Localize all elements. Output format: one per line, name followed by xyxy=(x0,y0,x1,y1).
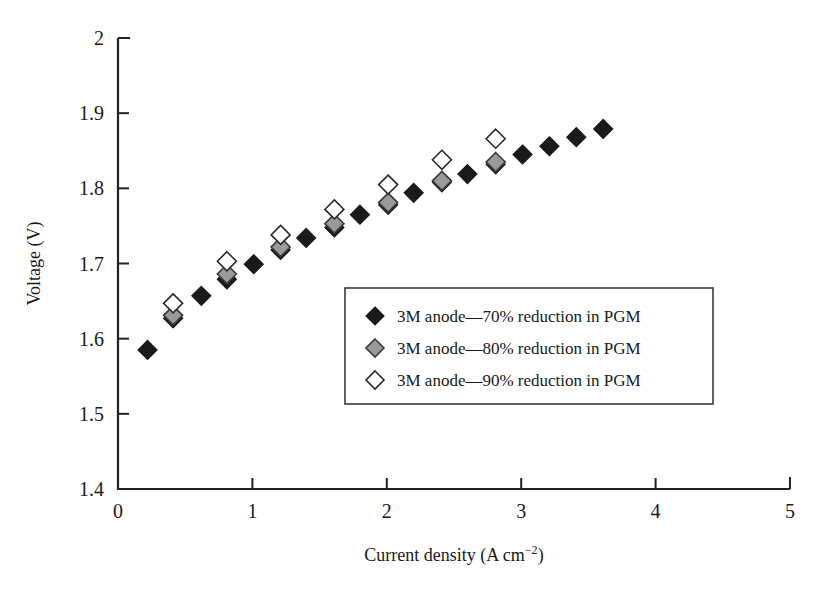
y-tick-label: 1.5 xyxy=(79,403,104,425)
data-point xyxy=(192,286,211,305)
data-point xyxy=(164,294,183,313)
y-tick-label: 1.9 xyxy=(79,102,104,124)
legend-item-2[interactable]: 3M anode—80% reduction in PGM xyxy=(366,339,641,358)
data-point xyxy=(217,252,236,271)
legend-item-1[interactable]: 3M anode—70% reduction in PGM xyxy=(366,307,641,326)
data-point xyxy=(486,129,505,148)
x-axis-title: Current density (A cm−2) xyxy=(364,543,543,566)
x-axis-title-superscript: −2 xyxy=(525,543,538,557)
x-tick-label: 5 xyxy=(785,500,795,522)
y-tick-label: 1.7 xyxy=(79,253,104,275)
data-point xyxy=(244,255,263,274)
chart-legend: 3M anode—70% reduction in PGM3M anode—80… xyxy=(345,288,713,404)
data-point xyxy=(271,225,290,244)
x-axis-title-tail: ) xyxy=(538,545,544,566)
y-axis-tick-labels: 1.41.51.61.71.81.92 xyxy=(79,27,104,500)
data-point xyxy=(594,119,613,138)
legend-label: 3M anode—90% reduction in PGM xyxy=(397,371,641,390)
x-axis-title-base: Current density (A cm xyxy=(364,545,524,566)
data-point xyxy=(432,171,451,190)
data-point xyxy=(138,340,157,359)
x-axis-tick-labels: 012345 xyxy=(113,500,795,522)
data-point xyxy=(379,193,398,212)
legend-item-3[interactable]: 3M anode—90% reduction in PGM xyxy=(366,371,641,390)
y-tick-label: 1.4 xyxy=(79,478,104,500)
data-point xyxy=(567,128,586,147)
legend-label: 3M anode—80% reduction in PGM xyxy=(397,339,641,358)
y-tick-label: 1.6 xyxy=(79,328,104,350)
chart-figure: 1.41.51.61.71.81.92 012345 3M anode—70% … xyxy=(0,0,827,595)
data-point xyxy=(379,175,398,194)
y-axis-title: Voltage (V) xyxy=(24,221,45,305)
data-point xyxy=(432,150,451,169)
data-point xyxy=(297,228,316,247)
legend-label: 3M anode—70% reduction in PGM xyxy=(397,307,641,326)
x-tick-label: 3 xyxy=(516,500,526,522)
y-tick-label: 1.8 xyxy=(79,177,104,199)
data-point xyxy=(513,145,532,164)
data-point xyxy=(540,137,559,156)
x-tick-label: 0 xyxy=(113,500,123,522)
data-point xyxy=(325,200,344,219)
x-tick-label: 4 xyxy=(651,500,661,522)
data-point xyxy=(350,205,369,224)
y-tick-label: 2 xyxy=(94,27,104,49)
x-tick-label: 2 xyxy=(382,500,392,522)
x-tick-label: 1 xyxy=(247,500,257,522)
data-point xyxy=(486,153,505,172)
scatter-plot: 1.41.51.61.71.81.92 012345 3M anode—70% … xyxy=(0,0,827,595)
data-point xyxy=(404,183,423,202)
data-point xyxy=(458,165,477,184)
